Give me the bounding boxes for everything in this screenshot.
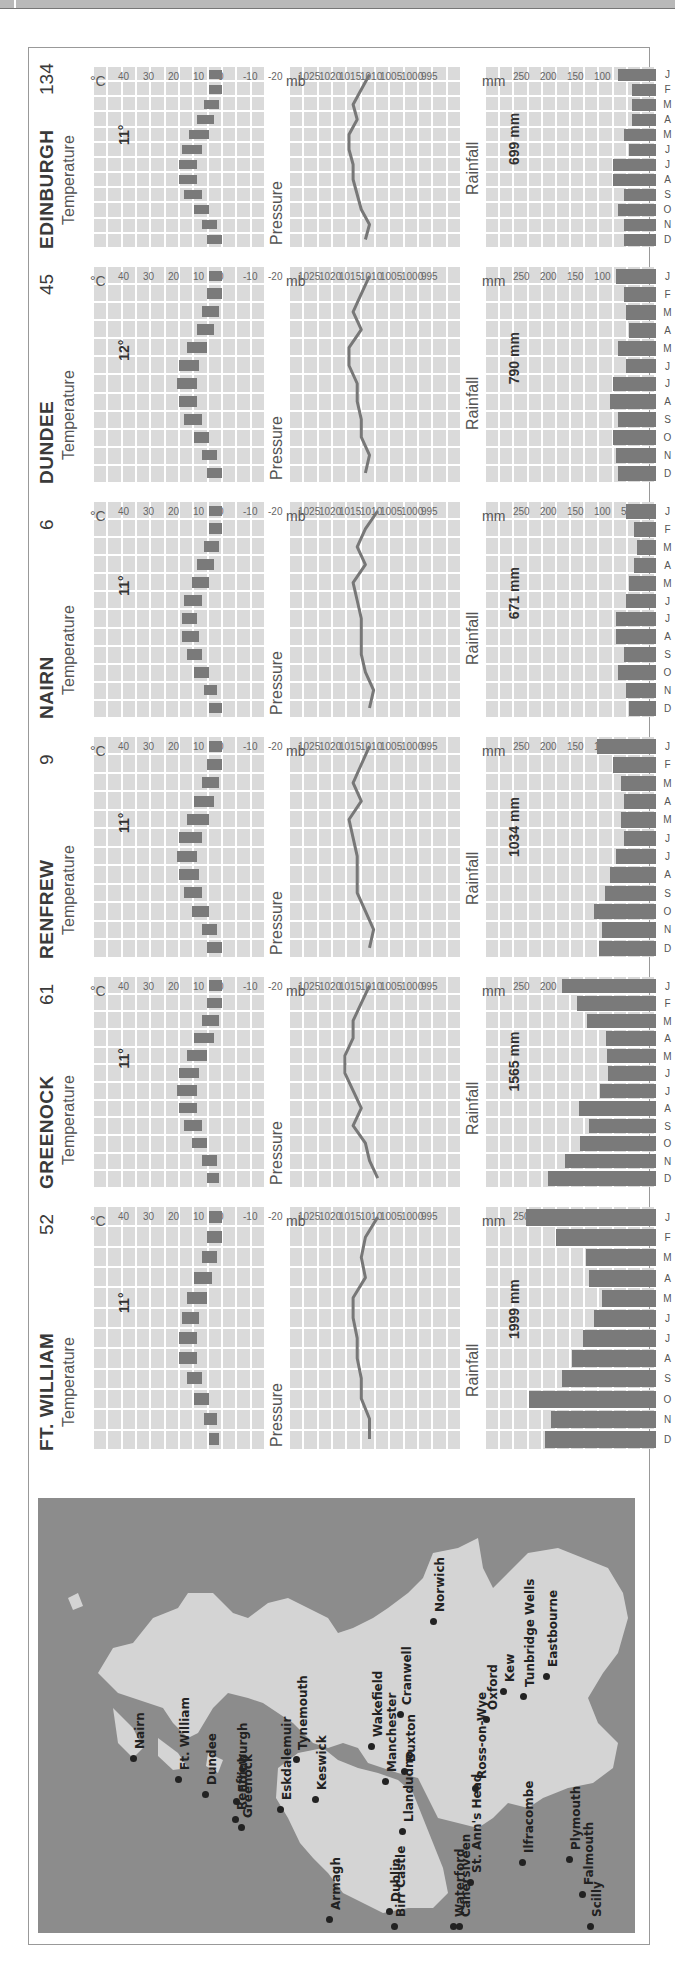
month-label: J [661,851,675,862]
city-marker [175,1776,182,1783]
rainfall-bar [583,1330,656,1347]
rainfall-tick: 250 [513,506,530,517]
pressure-line [36,965,636,1195]
rainfall-tick: 150 [567,741,584,752]
station-panel-edinburgh: EDINBURGH134Temperature°CPressurembRainf… [36,55,636,255]
city-marker [312,1796,319,1803]
city-marker [430,1618,437,1625]
month-label: A [661,1103,675,1114]
month-label: A [661,324,675,335]
station-panel-nairn: NAIRN6Temperature°CPressurembRainfallmm4… [36,490,636,725]
city-marker [587,1923,594,1930]
rainfall-tick: 250 [513,71,530,82]
month-label: J [661,1333,675,1344]
month-label: M [661,1292,675,1303]
month-label: F [661,84,675,95]
city-marker [391,1923,398,1930]
rainfall-bar [624,189,656,201]
month-label: N [661,685,675,696]
rainfall-bar [545,1431,656,1448]
city-marker [386,1908,393,1915]
panel-inner: DUNDEE45Temperature°CPressurembRainfallm… [36,255,636,490]
rainfall-bar [579,1102,656,1117]
rainfall-bar [551,1411,656,1428]
city-marker [277,1806,284,1813]
rainfall-bar [626,359,656,374]
rainfall-bar [629,144,656,156]
month-label: D [661,468,675,479]
rainfall-bar [607,1049,656,1064]
rainfall-bar [556,1229,656,1246]
city-marker [326,1916,333,1923]
city-label: Eastbourne [546,1590,560,1667]
city-label: Cahersiveen [459,1834,473,1917]
rainfall-bar [597,739,656,754]
rainfall-bar [587,1014,656,1029]
rainfall-bar [589,1119,657,1134]
rainfall-bar [632,84,656,96]
month-label: S [661,1373,675,1384]
rainfall-bar [572,1350,656,1367]
rainfall-bar [618,412,656,427]
month-label: J [661,595,675,606]
city-label: Llandudno [402,1751,416,1822]
month-label: J [661,1212,675,1223]
rainfall-bar [629,701,656,716]
rainfall-bar [626,594,656,609]
rainfall-bar [629,576,656,591]
month-label: S [661,189,675,200]
city-label: Nairn [133,1712,147,1749]
month-label: A [661,559,675,570]
month-label: M [661,541,675,552]
rainfall-bar [624,234,656,246]
rainfall-bar [594,904,656,919]
rainfall-bar [606,1032,656,1047]
month-label: N [661,1155,675,1166]
city-label: Renfrew [235,1754,249,1810]
rainfall-bar [624,647,656,662]
month-label: M [661,1015,675,1026]
city-marker [293,1756,300,1763]
month-label: A [661,1353,675,1364]
panel-inner: EDINBURGH134Temperature°CPressurembRainf… [36,55,636,255]
top-border-corner [0,0,16,8]
month-label: J [661,1085,675,1096]
rainfall-bar [602,1290,656,1307]
month-label: J [661,270,675,281]
month-label: A [661,396,675,407]
month-label: O [661,1138,675,1149]
month-label: F [661,998,675,1009]
month-label: A [661,869,675,880]
rainfall-tick: 200 [540,71,557,82]
month-label: N [661,450,675,461]
month-label: O [661,667,675,678]
month-label: S [661,887,675,898]
station-panel-renfrew: RENFREW9Temperature°CPressurembRainfallm… [36,725,636,965]
rainfall-bar [565,1154,656,1169]
rainfall-bar [618,69,656,81]
city-label: Ilfracombe [522,1781,536,1853]
month-label: J [661,1312,675,1323]
pressure-line [36,1195,636,1457]
city-label: Kew [503,1654,517,1682]
city-label: Armagh [329,1857,343,1910]
rainfall-bar [626,683,656,698]
rainfall-bar [629,323,656,338]
rainfall-tick: 250 [513,981,530,992]
annual-rainfall-total: 790 mm [506,332,522,384]
month-label: O [661,204,675,215]
city-marker [130,1755,137,1762]
month-label: J [661,69,675,80]
rainfall-tick: 200 [540,981,557,992]
month-label: F [661,1232,675,1243]
month-label: F [661,288,675,299]
panel-inner: NAIRN6Temperature°CPressurembRainfallmm4… [36,490,636,725]
rainfall-tick: 100 [594,71,611,82]
rainfall-bar [618,466,656,481]
city-label: Keswick [315,1735,329,1790]
annual-rainfall-total: 671 mm [506,567,522,619]
pressure-line [36,55,636,255]
rainfall-tick: 250 [513,271,530,282]
panel-inner: RENFREW9Temperature°CPressurembRainfallm… [36,725,636,965]
rainfall-bar [594,1310,656,1327]
